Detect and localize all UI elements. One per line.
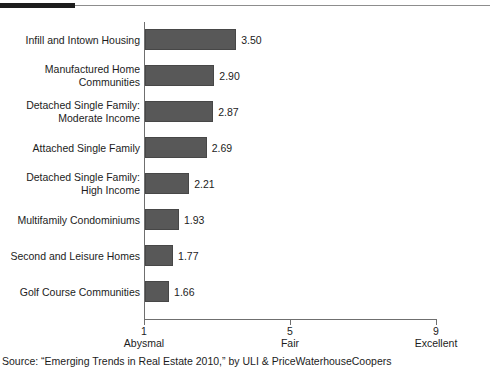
bar [145, 209, 179, 230]
category-label: Attached Single Family [0, 130, 140, 166]
bar [145, 173, 189, 194]
category-label: Detached Single Family: High Income [0, 166, 140, 202]
x-tick-description: Excellent [376, 337, 490, 350]
bar-row: Detached Single Family: High Income2.21 [0, 166, 490, 202]
category-label: Infill and Intown Housing [0, 22, 140, 58]
x-tick-label-group-1: 1Abysmal [84, 325, 204, 350]
bar-row: Detached Single Family: Moderate Income2… [0, 94, 490, 130]
x-tick-label-group-9: 9Excellent [376, 325, 490, 350]
category-label: Multifamily Condominiums [0, 202, 140, 238]
bar-chart: Infill and Intown Housing3.50Manufacture… [0, 0, 490, 340]
bar [145, 29, 236, 50]
bar-row: Golf Course Communities1.66 [0, 274, 490, 310]
bar [145, 137, 207, 158]
x-tick-label-group-5: 5Fair [230, 325, 350, 350]
bar-row: Attached Single Family2.69 [0, 130, 490, 166]
bar-value-label: 1.66 [174, 274, 194, 310]
x-tick-number: 9 [376, 325, 490, 337]
bar-row: Manufactured Home Communities2.90 [0, 58, 490, 94]
x-tick-description: Abysmal [84, 337, 204, 350]
x-tick-description: Fair [230, 337, 350, 350]
category-label: Detached Single Family: Moderate Income [0, 94, 140, 130]
x-tick-number: 1 [84, 325, 204, 337]
bar-value-label: 2.21 [194, 166, 214, 202]
bar-value-label: 1.93 [184, 202, 204, 238]
bar-value-label: 2.87 [218, 94, 238, 130]
bar [145, 101, 213, 122]
source-note: Source: “Emerging Trends in Real Estate … [2, 355, 391, 368]
x-tick-number: 5 [230, 325, 350, 337]
bar-row: Multifamily Condominiums1.93 [0, 202, 490, 238]
bar [145, 245, 173, 266]
category-label: Golf Course Communities [0, 274, 140, 310]
bar [145, 65, 214, 86]
category-label: Second and Leisure Homes [0, 238, 140, 274]
bar-value-label: 1.77 [178, 238, 198, 274]
bar-value-label: 2.69 [212, 130, 232, 166]
bar [145, 281, 169, 302]
bar-value-label: 3.50 [241, 22, 261, 58]
bar-value-label: 2.90 [219, 58, 239, 94]
category-label: Manufactured Home Communities [0, 58, 140, 94]
bar-row: Infill and Intown Housing3.50 [0, 22, 490, 58]
bar-row: Second and Leisure Homes1.77 [0, 238, 490, 274]
